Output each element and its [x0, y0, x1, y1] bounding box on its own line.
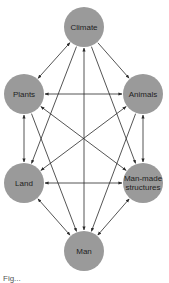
node-man: Man [64, 231, 104, 271]
node-plants: Plants [4, 74, 44, 114]
edge-land-man [38, 199, 70, 236]
figure-caption: Fig... [3, 274, 21, 283]
node-animals-label: Animals [129, 90, 157, 99]
node-climate: Climate [64, 7, 104, 47]
edge-climate-animals [98, 43, 129, 78]
node-plants-label: Plants [13, 90, 35, 99]
node-animals: Animals [123, 74, 163, 114]
node-land: Land [4, 163, 44, 203]
node-manmade-structures: Man-made structures [123, 163, 163, 203]
edge-manmade-man [98, 199, 129, 235]
node-man-label: Man [76, 247, 92, 256]
node-manmade-label: Man-made structures [123, 174, 163, 192]
node-climate-label: Climate [70, 23, 97, 32]
node-land-label: Land [15, 179, 33, 188]
edge-climate-plants [38, 43, 70, 79]
